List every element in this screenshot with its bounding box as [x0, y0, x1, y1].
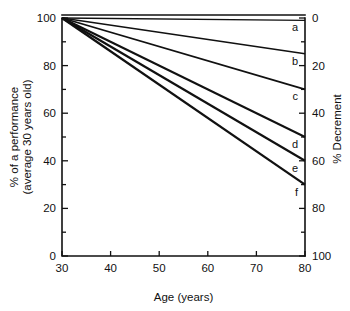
series-label-b: b [292, 55, 298, 67]
performance-decline-line-chart: 304050607080 020406080100 020406080100 a… [0, 0, 350, 311]
series-label-e: e [292, 162, 298, 174]
series-lines [62, 18, 305, 185]
x-tick-label: 80 [299, 262, 312, 274]
x-tick-label: 70 [250, 262, 263, 274]
series-line-a [62, 18, 305, 20]
x-tick-label: 50 [153, 262, 166, 274]
x-axis-title: Age (years) [154, 291, 214, 303]
y2-tick-label: 80 [312, 202, 325, 214]
y2-tick-label: 60 [312, 155, 325, 167]
y-tick-label: 80 [43, 60, 56, 72]
y-axis-title-line1: % of a performance [8, 87, 20, 187]
series-label-a: a [292, 21, 299, 33]
y-tick-label: 100 [37, 12, 56, 24]
series-line-c [62, 18, 305, 89]
y-axis-title-line2: (average 30 years old) [21, 79, 33, 194]
series-label-c: c [293, 90, 299, 102]
series-line-f [62, 18, 305, 185]
plot-frame [62, 15, 305, 256]
y2-tick-label: 0 [312, 12, 318, 24]
chart-figure: 304050607080 020406080100 020406080100 a… [0, 0, 350, 311]
secondary-y-axis-tick-labels: 020406080100 [312, 12, 331, 262]
y-tick-label: 60 [43, 107, 56, 119]
series-label-d: d [292, 138, 298, 150]
y-axis-tick-labels: 020406080100 [37, 12, 56, 262]
y2-tick-label: 100 [312, 250, 331, 262]
y2-tick-label: 40 [312, 107, 325, 119]
x-tick-label: 60 [201, 262, 214, 274]
series-end-labels: abcdef [292, 21, 299, 197]
y-tick-label: 20 [43, 202, 56, 214]
x-tick-label: 40 [104, 262, 117, 274]
y2-axis-title: % Decrement [331, 93, 343, 163]
x-tick-label: 30 [56, 262, 69, 274]
x-axis-tick-labels: 304050607080 [56, 262, 312, 274]
series-line-e [62, 18, 305, 161]
y2-tick-label: 20 [312, 60, 325, 72]
y-tick-label: 0 [50, 250, 56, 262]
y-axis-ticks [62, 18, 68, 256]
series-label-f: f [295, 186, 299, 198]
y-tick-label: 40 [43, 155, 56, 167]
